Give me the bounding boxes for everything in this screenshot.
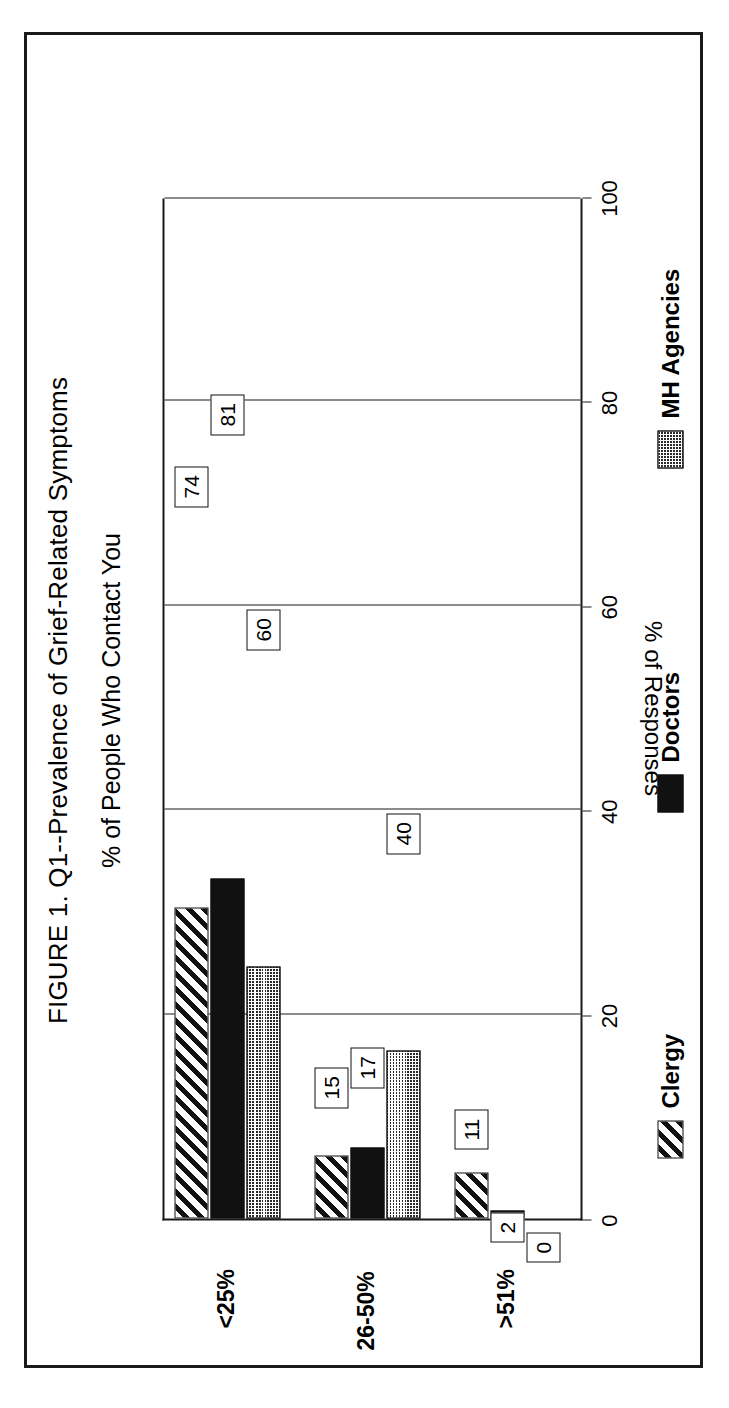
plot-area: 74 81 60 15 17 40 11 2 0 xyxy=(162,198,582,1220)
data-label-mh-26to50: 40 xyxy=(386,813,420,854)
data-label-mh-gt51: 0 xyxy=(526,1232,560,1262)
tick-label-0: 0 xyxy=(596,1214,622,1226)
legend-item-clergy[interactable]: Clergy xyxy=(656,1033,684,1158)
chart-subtitle: % of People Who Contact You xyxy=(96,32,125,1368)
tick-mark-40 xyxy=(582,810,591,811)
gridline-100 xyxy=(164,197,580,198)
legend-label-doctors: Doctors xyxy=(656,671,684,762)
data-label-clergy-26to50: 15 xyxy=(314,1067,348,1108)
figure-frame: FIGURE 1. Q1--Prevalence of Grief-Relate… xyxy=(24,32,703,1368)
legend-label-mh-agencies: MH Agencies xyxy=(656,268,684,418)
rotated-chart-stage: FIGURE 1. Q1--Prevalence of Grief-Relate… xyxy=(24,32,703,1368)
data-label-clergy-lt25: 74 xyxy=(174,466,208,507)
bar-clergy-26to50[interactable] xyxy=(314,1155,348,1218)
data-label-doctors-lt25: 81 xyxy=(210,394,244,435)
legend-label-clergy: Clergy xyxy=(656,1033,684,1108)
bar-mh-26to50[interactable] xyxy=(386,1050,420,1218)
bar-mh-lt25[interactable] xyxy=(246,966,280,1218)
tick-label-20: 20 xyxy=(596,1003,622,1027)
legend-item-doctors[interactable]: Doctors xyxy=(656,671,684,812)
data-label-doctors-gt51: 2 xyxy=(490,1212,524,1242)
tick-mark-60 xyxy=(582,606,591,607)
tick-mark-20 xyxy=(582,1015,591,1016)
category-label-gt51: >51% xyxy=(493,1269,520,1328)
tick-mark-80 xyxy=(582,401,591,402)
gridline-60 xyxy=(164,604,580,605)
gridline-40 xyxy=(164,808,580,809)
tick-mark-100 xyxy=(582,197,591,198)
legend-item-mh-agencies[interactable]: MH Agencies xyxy=(656,268,684,468)
legend-swatch-mh-agencies-icon xyxy=(657,430,683,468)
page-title: FIGURE 1. Q1--Prevalence of Grief-Relate… xyxy=(42,32,73,1368)
category-label-lt25: <25% xyxy=(213,1269,240,1328)
bar-clergy-gt51[interactable] xyxy=(454,1172,488,1218)
legend-swatch-clergy-icon xyxy=(657,1120,683,1158)
tick-label-100: 100 xyxy=(596,180,622,217)
category-label-26to50: 26-50% xyxy=(353,1271,380,1350)
data-label-clergy-gt51: 11 xyxy=(454,1109,488,1149)
bar-doctors-lt25[interactable] xyxy=(210,878,244,1218)
bar-doctors-26to50[interactable] xyxy=(350,1147,384,1218)
tick-mark-0 xyxy=(582,1219,591,1220)
tick-label-60: 60 xyxy=(596,595,622,619)
tick-label-80: 80 xyxy=(596,390,622,414)
bar-clergy-lt25[interactable] xyxy=(174,907,208,1218)
tick-label-40: 40 xyxy=(596,799,622,823)
data-label-mh-lt25: 60 xyxy=(246,609,280,650)
data-label-doctors-26to50: 17 xyxy=(350,1047,384,1088)
legend-swatch-doctors-icon xyxy=(657,774,683,812)
